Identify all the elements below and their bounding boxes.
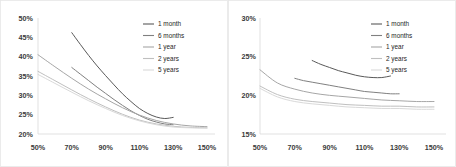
right-series-group <box>260 61 434 110</box>
y-tick-label: 35% <box>19 72 34 81</box>
left-y-tick-labels: 20%25%30%35%40%45%50% <box>19 14 34 139</box>
legend-label: 5 years <box>386 66 407 74</box>
legend-label: 1 year <box>158 43 177 51</box>
dual-chart-figure: 20%25%30%35%40%45%50% 50%70%90%110%130%1… <box>0 0 456 167</box>
right-plot-axes <box>260 18 446 134</box>
left-chart-panel: 20%25%30%35%40%45%50% 50%70%90%110%130%1… <box>0 0 228 167</box>
y-tick-label: 30% <box>19 91 34 100</box>
right-chart-svg: 15%20%25%30% 50%70%90%110%130%150% 1 mon… <box>228 0 456 167</box>
y-tick-label: 30% <box>242 14 257 23</box>
series-line <box>72 67 173 124</box>
x-tick-label: 110% <box>130 143 149 152</box>
legend-label: 1 month <box>158 20 182 27</box>
left-legend: 1 month6 months1 year2 years5 years <box>143 20 184 74</box>
x-tick-label: 70% <box>65 143 80 152</box>
series-line <box>295 78 399 94</box>
series-line <box>38 74 207 128</box>
y-tick-label: 45% <box>19 33 34 42</box>
legend-label: 6 months <box>158 32 184 39</box>
x-tick-label: 70% <box>288 143 303 152</box>
legend-label: 2 years <box>158 55 179 63</box>
legend-label: 1 year <box>386 43 405 51</box>
y-tick-label: 20% <box>19 130 34 139</box>
x-tick-label: 150% <box>425 143 444 152</box>
left-chart-svg: 20%25%30%35%40%45%50% 50%70%90%110%130%1… <box>0 0 228 167</box>
x-tick-label: 130% <box>164 143 183 152</box>
series-line <box>312 61 390 78</box>
y-tick-label: 50% <box>19 14 34 23</box>
right-x-tick-labels: 50%70%90%110%130%150% <box>253 143 444 152</box>
legend-label: 2 years <box>386 55 407 63</box>
right-chart-panel: 15%20%25%30% 50%70%90%110%130%150% 1 mon… <box>228 0 456 167</box>
legend-label: 6 months <box>386 32 412 39</box>
x-tick-label: 50% <box>31 143 46 152</box>
left-panel-border <box>1 1 228 167</box>
x-tick-label: 90% <box>322 143 337 152</box>
x-tick-label: 110% <box>355 143 374 152</box>
y-tick-label: 25% <box>242 52 257 61</box>
x-tick-label: 50% <box>253 143 268 152</box>
legend-label: 5 years <box>158 66 179 74</box>
x-tick-label: 90% <box>98 143 113 152</box>
y-tick-label: 40% <box>19 52 34 61</box>
right-y-tick-labels: 15%20%25%30% <box>242 14 257 139</box>
left-x-tick-labels: 50%70%90%110%130%150% <box>31 143 217 152</box>
series-line <box>38 71 207 127</box>
legend-label: 1 month <box>386 20 410 27</box>
y-tick-label: 25% <box>19 110 34 119</box>
x-tick-label: 150% <box>198 143 217 152</box>
y-tick-label: 20% <box>242 91 257 100</box>
x-tick-label: 130% <box>390 143 409 152</box>
y-tick-label: 15% <box>242 130 257 139</box>
left-series-group <box>38 33 207 129</box>
right-panel-border <box>229 1 456 167</box>
right-legend: 1 month6 months1 year2 years5 years <box>371 20 412 74</box>
